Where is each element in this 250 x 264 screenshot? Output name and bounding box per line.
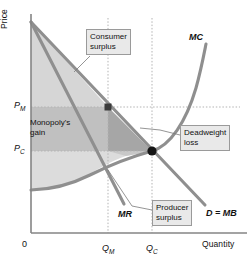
callout-deadweight-loss: Deadweight loss — [180, 125, 230, 151]
figure-canvas: Price Quantity 0 PM PC QM QC MC MR D = M… — [0, 0, 250, 264]
y-tick-pm: PM — [14, 100, 25, 112]
marginal-cost-label: MC — [189, 32, 203, 42]
region-label-monopolys-gain-line2: gain — [30, 128, 70, 138]
marginal-revenue-label: MR — [118, 209, 132, 219]
x-axis-label: Quantity — [202, 239, 234, 249]
monopoly-outcome-marker — [105, 104, 112, 111]
callout-producer-surplus: Producer surplus — [152, 200, 192, 226]
x-tick-qc: QC — [146, 243, 158, 255]
x-tick-qm-sub: M — [109, 248, 114, 255]
x-tick-qm-base: Q — [102, 243, 109, 253]
callout-deadweight-loss-line1: Deadweight — [184, 128, 226, 138]
x-tick-qc-base: Q — [146, 243, 153, 253]
x-tick-qc-sub: C — [153, 248, 158, 255]
origin-label: 0 — [22, 239, 27, 249]
callout-consumer-surplus-line1: Consumer — [90, 32, 127, 42]
y-tick-pc: PC — [14, 143, 25, 155]
region-label-monopolys-gain-line1: Monopoly's — [30, 118, 70, 128]
callout-producer-surplus-line2: surplus — [156, 213, 188, 223]
callout-producer-surplus-line1: Producer — [156, 203, 188, 213]
y-tick-pc-sub: C — [20, 148, 25, 155]
x-tick-qm: QM — [102, 243, 114, 255]
demand-label: D = MB — [206, 208, 237, 218]
callout-deadweight-loss-line2: loss — [184, 138, 226, 148]
y-tick-pm-sub: M — [20, 105, 25, 112]
competitive-equilibrium-marker — [147, 146, 156, 155]
region-label-monopolys-gain: Monopoly's gain — [30, 118, 70, 138]
y-axis-label: Price — [0, 9, 9, 29]
callout-consumer-surplus-line2: surplus — [90, 42, 127, 52]
callout-consumer-surplus: Consumer surplus — [86, 29, 131, 55]
